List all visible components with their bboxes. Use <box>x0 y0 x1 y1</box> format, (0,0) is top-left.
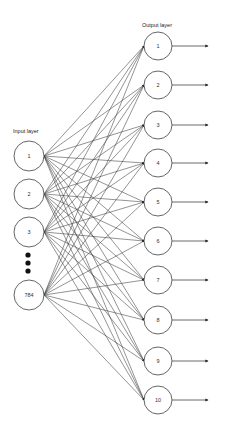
output-layer-nodes: 12345678910 <box>144 32 172 414</box>
output-node-9: 9 <box>144 347 172 375</box>
output-node-10: 10 <box>144 386 172 414</box>
input-node-2: 2 <box>14 179 44 209</box>
connection-edge <box>44 85 144 295</box>
connection-edge <box>44 156 144 361</box>
connection-edges <box>44 46 144 400</box>
output-layer-label: Output layer <box>142 22 172 28</box>
ellipsis-dot <box>25 260 30 265</box>
output-node-5: 5 <box>144 188 172 216</box>
connection-edge <box>44 232 144 241</box>
output-node-1: 1 <box>144 32 172 60</box>
connection-edge <box>44 194 144 361</box>
input-node-784: 784 <box>14 280 44 310</box>
node-label: 7 <box>156 277 159 283</box>
node-label: 10 <box>155 397 161 403</box>
connection-edge <box>44 163 144 295</box>
ellipsis-dot <box>25 268 30 273</box>
connection-edge <box>44 194 144 400</box>
ellipsis-dots <box>25 252 30 273</box>
connection-edge <box>44 232 144 320</box>
node-label: 4 <box>156 160 159 166</box>
input-node-1: 1 <box>14 141 44 171</box>
connection-edge <box>44 46 144 232</box>
output-node-6: 6 <box>144 227 172 255</box>
connection-edge <box>44 202 144 232</box>
node-label: 8 <box>156 317 159 323</box>
connection-edge <box>44 194 144 280</box>
node-label: 6 <box>156 238 159 244</box>
node-label: 9 <box>156 358 159 364</box>
connection-edge <box>44 46 144 194</box>
node-label: 1 <box>27 153 30 159</box>
output-node-3: 3 <box>144 111 172 139</box>
ellipsis-dot <box>25 252 30 257</box>
output-arrows <box>172 46 208 400</box>
connection-edge <box>44 241 144 295</box>
node-label: 2 <box>156 82 159 88</box>
connection-edge <box>44 46 144 295</box>
connection-edge <box>44 280 144 295</box>
node-label: 3 <box>156 122 159 128</box>
connection-edge <box>44 125 144 194</box>
connection-edge <box>44 295 144 400</box>
node-label: 784 <box>24 292 33 298</box>
connection-edge <box>44 85 144 156</box>
input-layer-nodes: 123784 <box>14 141 44 310</box>
node-label: 2 <box>27 191 30 197</box>
output-node-2: 2 <box>144 71 172 99</box>
output-node-7: 7 <box>144 266 172 294</box>
output-node-4: 4 <box>144 149 172 177</box>
connection-edge <box>44 156 144 241</box>
connection-edge <box>44 125 144 156</box>
node-label: 5 <box>156 199 159 205</box>
connection-edge <box>44 163 144 232</box>
output-node-8: 8 <box>144 306 172 334</box>
input-node-3: 3 <box>14 217 44 247</box>
connection-edge <box>44 156 144 280</box>
connection-edge <box>44 232 144 361</box>
node-label: 3 <box>27 229 30 235</box>
connection-edge <box>44 156 144 320</box>
neural-network-diagram: 123784 12345678910 Input layer Output la… <box>0 0 226 433</box>
connection-edge <box>44 232 144 280</box>
connection-edge <box>44 295 144 361</box>
node-label: 1 <box>156 43 159 49</box>
input-layer-label: Input layer <box>13 128 39 134</box>
